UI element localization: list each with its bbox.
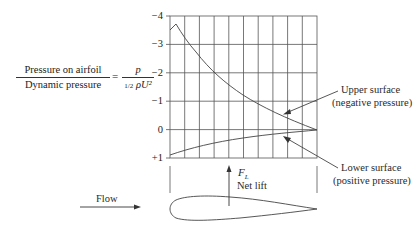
flow-arrow: [80, 205, 141, 210]
ratio-numerator: Pressure on airfoil: [16, 64, 110, 78]
y-tick-label: +1: [143, 152, 163, 163]
formula-denominator: 1/2 ρU²: [122, 78, 154, 92]
y-tick-label: −1: [143, 95, 163, 106]
airfoil-pressure-diagram: [0, 0, 420, 230]
upper-surface-leader: [283, 91, 338, 115]
pressure-ratio-label: Pressure on airfoil Dynamic pressure: [16, 64, 110, 91]
ratio-denominator: Dynamic pressure: [16, 78, 110, 91]
upper-surface-sublabel: (negative pressure): [332, 97, 412, 109]
airfoil-shape: [170, 196, 317, 220]
net-lift-arrow: [227, 165, 232, 206]
pressure-formula: p 1/2 ρU²: [122, 64, 154, 92]
flow-label: Flow: [96, 193, 118, 205]
lift-symbol: F: [238, 166, 245, 178]
lower-surface-sublabel: (positive pressure): [333, 175, 411, 187]
y-tick-label: −4: [143, 10, 163, 21]
formula-half: 1/2: [124, 82, 133, 90]
y-tick-label: 0: [143, 124, 163, 135]
formula-numerator: p: [122, 64, 154, 78]
upper-surface-label: Upper surface: [341, 84, 400, 96]
net-lift-label: Net lift: [237, 180, 267, 192]
lower-surface-leader: [283, 136, 338, 168]
lower-surface-label: Lower surface: [341, 162, 401, 174]
formula-rho-u: ρU²: [136, 79, 152, 90]
equals-sign: =: [112, 70, 118, 82]
pressure-grid: [166, 16, 317, 158]
y-tick-label: −3: [143, 38, 163, 49]
